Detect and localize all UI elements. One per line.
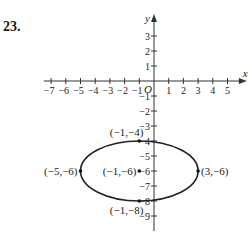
data-point xyxy=(138,139,142,143)
point-label: (−1,−6) xyxy=(103,165,137,178)
x-tick-label: −2 xyxy=(117,85,128,96)
data-point xyxy=(138,199,142,203)
data-point xyxy=(79,169,83,173)
data-point xyxy=(196,169,200,173)
y-tick-label: −5 xyxy=(139,151,150,162)
y-axis-label: y xyxy=(144,12,150,24)
x-tick-label: 3 xyxy=(196,85,201,96)
x-tick-label: −5 xyxy=(73,85,84,96)
y-tick-label: −2 xyxy=(139,106,150,117)
x-tick-label: 2 xyxy=(181,85,186,96)
x-tick-label: −7 xyxy=(44,85,55,96)
x-tick-label: 4 xyxy=(210,85,215,96)
y-tick-label: −7 xyxy=(139,181,150,192)
point-label: (−5,−6) xyxy=(44,165,78,178)
y-axis-arrow-icon xyxy=(151,14,157,22)
x-tick-label: −4 xyxy=(88,85,99,96)
points: (−1,−4)(−5,−6)(−1,−6)(3,−6)(−1,−8) xyxy=(44,126,229,217)
x-axis-label: x xyxy=(242,67,248,79)
y-tick-label: 3 xyxy=(145,31,150,42)
x-tick-label: 5 xyxy=(225,85,230,96)
y-tick-label: −1 xyxy=(139,91,150,102)
x-tick-label: −6 xyxy=(58,85,69,96)
ellipse-graph: xyO −7−6−5−4−3−2−112345321−1−2−3−4−5−6−7… xyxy=(0,0,249,242)
data-point xyxy=(138,169,142,173)
y-tick-label: 1 xyxy=(145,61,150,72)
point-label: (−1,−8) xyxy=(110,204,144,217)
x-tick-label: −3 xyxy=(103,85,114,96)
point-label: (3,−6) xyxy=(201,165,229,178)
y-tick-label: 2 xyxy=(145,46,150,57)
point-label: (−1,−4) xyxy=(110,126,144,139)
x-tick-label: 1 xyxy=(166,85,171,96)
